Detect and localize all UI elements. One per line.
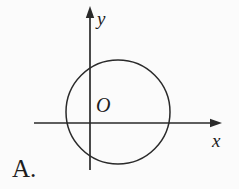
option-letter-label: A. xyxy=(12,155,36,182)
x-axis-label: x xyxy=(211,130,221,151)
circle-shape xyxy=(66,60,170,164)
figure-page: y x O A. xyxy=(0,0,239,189)
coordinate-plane-figure: y x O A. xyxy=(0,0,239,189)
y-axis-label: y xyxy=(95,8,106,29)
x-axis-arrowhead-icon xyxy=(210,119,222,127)
y-axis-arrowhead-icon xyxy=(86,6,94,18)
origin-label: O xyxy=(96,94,110,116)
